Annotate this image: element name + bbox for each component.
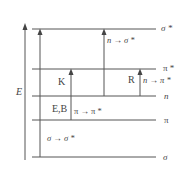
level-label-n: n [164, 92, 169, 101]
transition-label-pi-to-pi-star: π → π * [74, 107, 102, 116]
level-label-sigma-star: σ * [161, 24, 172, 33]
band-label-r: R [128, 75, 135, 85]
energy-diagram-canvas [0, 0, 188, 181]
energy-axis [23, 23, 28, 160]
level-label-pi-star: π * [163, 64, 174, 73]
transition-label-sigma-to-sigma-star: σ → σ * [47, 134, 75, 143]
band-label-eb: E,B [52, 104, 67, 114]
level-label-sigma: σ [163, 153, 167, 162]
energy-axis-label: E [16, 87, 22, 97]
transition-label-n-to-pi-star: n → π * [143, 76, 171, 85]
transition-label-n-to-sigma-star: n → σ * [107, 36, 135, 45]
level-label-pi: π [164, 116, 169, 125]
band-label-k: K [58, 77, 65, 87]
